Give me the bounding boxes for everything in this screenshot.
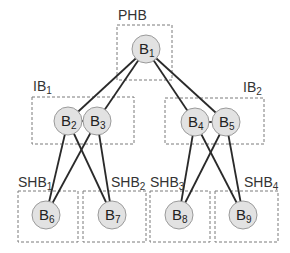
hierarchy-diagram: PHBIB1IB2SHB1SHB2SHB3SHB4 B1B2B3B4B5B6B7… [0, 0, 290, 253]
group-label: SHB4 [244, 174, 279, 192]
diagram-svg: PHBIB1IB2SHB1SHB2SHB3SHB4 B1B2B3B4B5B6B7… [0, 0, 290, 253]
node-b5: B5 [212, 108, 240, 136]
group-label: PHB [118, 7, 147, 23]
node-b2: B2 [54, 107, 82, 135]
group-label: SHB1 [18, 174, 53, 192]
group-label: SHB3 [150, 174, 185, 192]
node-b7: B7 [98, 201, 126, 229]
nodes: B1B2B3B4B5B6B7B8B9 [32, 35, 257, 229]
node-b6: B6 [32, 201, 60, 229]
node-b9: B9 [229, 201, 257, 229]
group-label: SHB2 [111, 174, 146, 192]
group-label: IB2 [243, 79, 262, 97]
node-b3: B3 [83, 107, 111, 135]
node-b8: B8 [165, 201, 193, 229]
group-label: IB1 [33, 78, 52, 96]
node-b4: B4 [181, 108, 209, 136]
node-b1: B1 [132, 35, 160, 63]
